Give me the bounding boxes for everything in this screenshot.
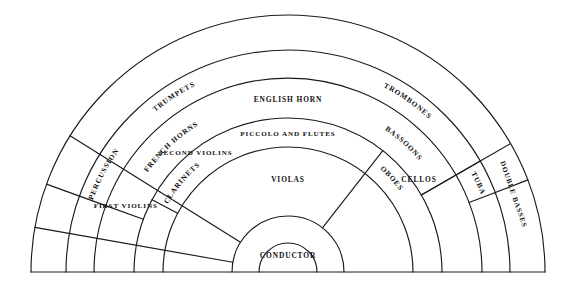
outer-arc (31, 15, 545, 272)
section-label-violas: VIOLAS (271, 175, 305, 184)
section-label-second-violins: SECOND VIOLINS (159, 149, 233, 157)
section-labels-group: CONDUCTORVIOLASFIRST VIOLINSSECOND VIOLI… (86, 79, 528, 259)
section-label-clarinets: CLARINETS (162, 160, 202, 205)
section-label-piccolo-flutes: PICCOLO AND FLUTES (240, 130, 335, 138)
section-label-first-violins: FIRST VIOLINS (94, 202, 158, 210)
woodwind-outer-arc (134, 118, 442, 272)
section-label-percussion: PERCUSSION (86, 146, 121, 201)
section-label-conductor: CONDUCTOR (260, 251, 316, 260)
orchestra-diagram-canvas: CONDUCTORVIOLASFIRST VIOLINSSECOND VIOLI… (0, 0, 571, 288)
violins-split (35, 227, 233, 262)
section-label-trumpets: TRUMPETS (151, 79, 197, 113)
section-label-cellos: CELLOS (401, 175, 436, 184)
viola-cello-divider (322, 151, 382, 228)
section-label-trombones: TROMBONES (382, 81, 434, 121)
strings-inner-arc (232, 216, 344, 272)
basses-inner-arc (66, 50, 510, 272)
section-label-english-horn: ENGLISH HORN (254, 95, 323, 104)
orchestra-seating-diagram: CONDUCTORVIOLASFIRST VIOLINSSECOND VIOLI… (0, 0, 571, 288)
basses-divider (421, 144, 510, 196)
section-label-tuba: TUBA (469, 170, 487, 196)
arc-lines-group (31, 15, 545, 272)
